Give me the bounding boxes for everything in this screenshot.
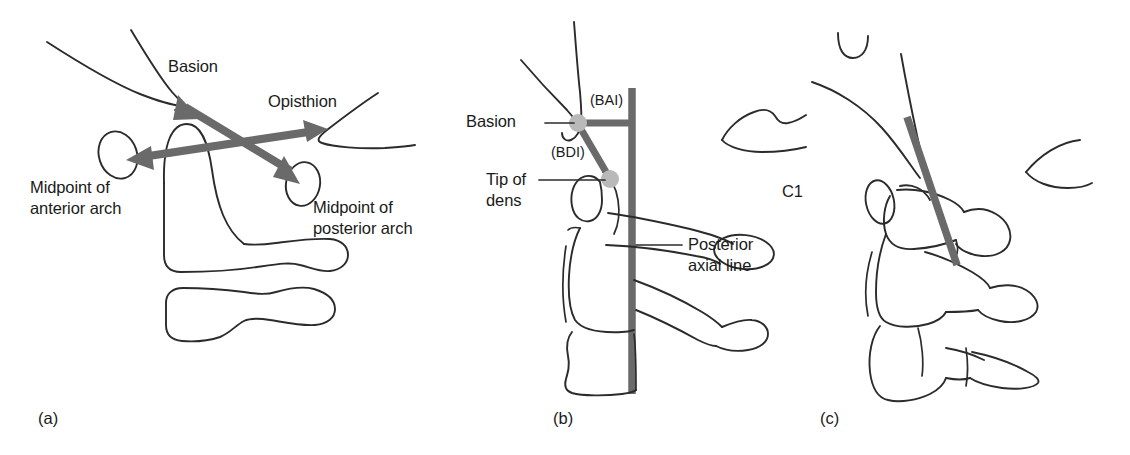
panel-b-label-c1: C1 (782, 182, 803, 201)
panel-a-label-midpoint-posterior-arch-line1: Midpoint of (313, 198, 393, 217)
panel-b-label-basion: Basion (466, 112, 516, 131)
panel-c-skull-arch (838, 33, 868, 58)
panel-c-c2-spinous (978, 285, 1038, 322)
panel-b-c2-spinous-tip (716, 320, 768, 351)
figure-craniocervical-measurements: Basion Opisthion Midpoint of anterior ar… (0, 0, 1130, 455)
panel-b-label-bai: (BAI) (590, 92, 623, 109)
panel-a-label-opisthion: Opisthion (268, 92, 337, 111)
panel-c-c3-vertebra-outline (869, 326, 946, 401)
panel-a-label-midpoint-posterior-arch-line2: posterior arch (313, 219, 412, 238)
panel-c-drawing (812, 33, 1092, 401)
panel-b-skull-base-curve (521, 60, 577, 124)
panel-b-label-tip-of-dens-line2: dens (486, 191, 521, 210)
panel-c-anterior-arch-oval (862, 178, 899, 227)
panel-b-c2-anterior-wall (563, 246, 566, 322)
panel-b-label-posterior-axial-line2: axial line (688, 256, 751, 275)
panel-a-label-basion: Basion (168, 57, 218, 76)
panel-a-skull-base-curve (47, 42, 182, 106)
panel-c-c2-lower-border (946, 310, 978, 312)
panel-c-occiput-fragment-lower (1026, 172, 1092, 188)
panel-b-occiput-fragment (722, 110, 806, 140)
panel-b-c2-spinous-lower (636, 310, 716, 346)
panel-label-b: (b) (553, 409, 573, 428)
panel-c-occiput-fragment (1026, 140, 1080, 172)
panel-b-c2-body-outline (569, 228, 634, 332)
panel-c-dens-outline (900, 185, 930, 200)
panel-c-c1-lateral-mass (956, 209, 1010, 256)
panel-b-c3-vertebra-outline (565, 332, 636, 395)
panel-c-c3-facet-gap (966, 348, 968, 386)
panel-label-c: (c) (820, 409, 839, 428)
panel-b-c2-spinous-upper (634, 280, 722, 327)
panel-c-c2-anterior-wall (866, 252, 872, 316)
panel-b-label-tip-of-dens-line1: Tip of (486, 170, 526, 189)
panel-c-c2-body-outline (876, 234, 946, 327)
panel-b-label-posterior-axial-line1: Posterior (688, 235, 753, 254)
panel-c-c3-lower-border (946, 378, 970, 380)
panel-a-arrow-opisthion-anterior-arch (126, 120, 328, 170)
panel-c-c3-right-wall (918, 328, 923, 376)
panel-c-posterior-axial-line (907, 117, 957, 265)
panel-a-label-midpoint-anterior-arch-line2: anterior arch (30, 199, 121, 218)
panel-c-skull-base-curve (812, 82, 920, 178)
panel-b-drawing (521, 22, 806, 395)
panel-label-a: (a) (38, 409, 58, 428)
panel-a-c3-vertebra-outline (166, 288, 335, 342)
panel-b-label-bdi: (BDI) (551, 144, 585, 161)
panel-a-label-midpoint-anterior-arch-line1: Midpoint of (30, 178, 110, 197)
panel-b-dens-outline (571, 176, 602, 221)
panel-b-tip-of-dens-dot (601, 170, 619, 188)
panel-b-occiput-fragment-lower (722, 140, 806, 152)
